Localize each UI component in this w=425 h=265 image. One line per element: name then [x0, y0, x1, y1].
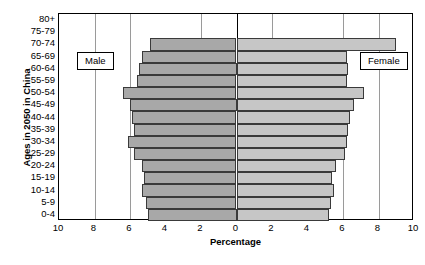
- bar-row: [59, 75, 412, 87]
- bar-female-20-24: [237, 160, 336, 172]
- y-tick-75-79: 75-79: [0, 25, 55, 36]
- y-tick-5-9: 5-9: [0, 196, 55, 207]
- bar-male-40-44: [132, 111, 237, 123]
- x-tick-1: 8: [79, 222, 109, 233]
- bar-male-30-34: [128, 136, 236, 148]
- bar-female-10-14: [237, 184, 335, 196]
- bar-male-35-39: [134, 124, 237, 136]
- bar-female-70-74: [237, 38, 397, 50]
- bar-row: [59, 87, 412, 99]
- bar-row: [59, 14, 412, 26]
- bar-male-0-4: [148, 209, 237, 221]
- bar-row: [59, 148, 412, 160]
- y-tick-25-29: 25-29: [0, 147, 55, 158]
- bar-female-35-39: [237, 124, 349, 136]
- x-tick-0: 10: [43, 222, 73, 233]
- bar-row: [59, 172, 412, 184]
- y-tick-15-19: 15-19: [0, 171, 55, 182]
- bar-male-25-29: [134, 148, 237, 160]
- bar-female-50-54: [237, 87, 365, 99]
- legend-label-male: Male: [77, 52, 114, 70]
- bar-row: [59, 38, 412, 50]
- bar-female-45-49: [237, 99, 354, 111]
- bar-male-20-24: [142, 160, 236, 172]
- x-tick-3: 4: [150, 222, 180, 233]
- bar-male-70-74: [150, 38, 237, 50]
- y-tick-30-34: 30-34: [0, 135, 55, 146]
- y-tick-80+: 80+: [0, 13, 55, 24]
- x-tick-8: 6: [327, 222, 357, 233]
- bar-row: [59, 209, 412, 221]
- bar-female-60-64: [237, 63, 349, 75]
- bar-female-25-29: [237, 148, 345, 160]
- y-tick-45-49: 45-49: [0, 98, 55, 109]
- bar-female-0-4: [237, 209, 329, 221]
- y-tick-65-69: 65-69: [0, 50, 55, 61]
- bar-male-60-64: [139, 63, 237, 75]
- bar-female-65-69: [237, 51, 347, 63]
- bar-female-30-34: [237, 136, 347, 148]
- x-tick-5: 0: [221, 222, 251, 233]
- y-tick-40-44: 40-44: [0, 111, 55, 122]
- y-tick-55-59: 55-59: [0, 74, 55, 85]
- x-tick-7: 4: [292, 222, 322, 233]
- bar-male-65-69: [142, 51, 236, 63]
- bar-row: [59, 136, 412, 148]
- bar-row: [59, 26, 412, 38]
- y-axis-tick-labels: 80+75-7970-7465-6960-6455-5950-5445-4940…: [0, 13, 55, 220]
- x-tick-9: 8: [363, 222, 393, 233]
- y-tick-60-64: 60-64: [0, 62, 55, 73]
- bar-male-10-14: [142, 184, 236, 196]
- bar-male-55-59: [137, 75, 236, 87]
- bar-male-50-54: [123, 87, 237, 99]
- legend-label-female: Female: [360, 52, 408, 70]
- x-tick-2: 6: [114, 222, 144, 233]
- y-tick-10-14: 10-14: [0, 184, 55, 195]
- bar-row: [59, 124, 412, 136]
- bar-female-15-19: [237, 172, 333, 184]
- bar-male-15-19: [144, 172, 236, 184]
- bar-row: [59, 184, 412, 196]
- y-tick-0-4: 0-4: [0, 208, 55, 219]
- bar-female-55-59: [237, 75, 347, 87]
- bar-female-5-9: [237, 197, 331, 209]
- bar-row: [59, 197, 412, 209]
- bar-male-5-9: [146, 197, 237, 209]
- x-tick-6: 2: [256, 222, 286, 233]
- y-tick-50-54: 50-54: [0, 86, 55, 97]
- x-axis-title: Percentage: [58, 236, 413, 247]
- y-tick-70-74: 70-74: [0, 37, 55, 48]
- bar-male-45-49: [130, 99, 237, 111]
- bar-row: [59, 160, 412, 172]
- bar-female-40-44: [237, 111, 351, 123]
- x-tick-10: 10: [398, 222, 425, 233]
- bar-rows: [59, 14, 412, 219]
- y-tick-35-39: 35-39: [0, 123, 55, 134]
- plot-area: [58, 13, 413, 220]
- population-pyramid-chart: Ages in 2050 in China 80+75-7970-7465-69…: [0, 0, 425, 265]
- x-tick-4: 2: [185, 222, 215, 233]
- bar-row: [59, 99, 412, 111]
- bar-row: [59, 111, 412, 123]
- y-tick-20-24: 20-24: [0, 159, 55, 170]
